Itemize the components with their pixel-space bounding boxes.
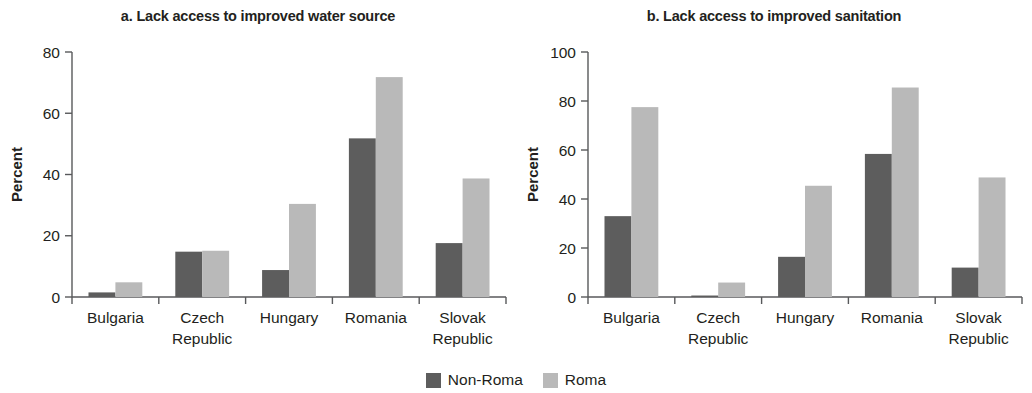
bar [175, 252, 202, 297]
y-tick-label: 0 [567, 289, 576, 306]
x-tick-label: Bulgaria [87, 309, 144, 326]
bar [463, 178, 490, 297]
bar [289, 204, 316, 297]
bar [979, 177, 1006, 297]
bar [349, 138, 376, 297]
y-axis-label: Percent [524, 147, 541, 202]
legend-label: Non-Roma [448, 371, 523, 389]
x-tick-label: CzechRepublic [688, 309, 749, 347]
bar [436, 243, 463, 297]
bar [115, 282, 142, 297]
bar [631, 107, 658, 297]
bar [865, 154, 892, 297]
x-tick-label: Romania [861, 309, 923, 326]
x-tick-label: Hungary [776, 309, 835, 326]
legend-swatch-icon [543, 373, 558, 388]
y-tick-label: 100 [550, 44, 576, 61]
panel-b-chart: 020406080100PercentBulgariaCzechRepublic… [516, 0, 1032, 360]
bar [778, 257, 805, 297]
bar [952, 268, 979, 297]
bar [691, 296, 718, 297]
x-tick-label: SlovakRepublic [948, 309, 1009, 347]
legend-item: Roma [543, 371, 606, 389]
y-tick-label: 80 [43, 44, 61, 61]
x-tick-label: Hungary [260, 309, 319, 326]
y-tick-label: 60 [559, 142, 577, 159]
y-tick-label: 20 [559, 240, 577, 257]
x-tick-label: CzechRepublic [172, 309, 233, 347]
panel-b: b. Lack access to improved sanitation 02… [516, 0, 1032, 360]
panel-a-chart: 020406080PercentBulgariaCzechRepublicHun… [0, 0, 516, 360]
bar [892, 88, 919, 297]
y-tick-label: 0 [51, 289, 60, 306]
y-axis-label: Percent [8, 147, 25, 202]
bar [262, 270, 289, 297]
y-tick-label: 40 [43, 166, 61, 183]
legend-swatch-icon [426, 373, 441, 388]
y-tick-label: 40 [559, 191, 577, 208]
bar [805, 186, 832, 297]
legend-item: Non-Roma [426, 371, 523, 389]
bar [604, 216, 631, 297]
chart-legend: Non-RomaRoma [0, 371, 1032, 389]
legend-label: Roma [565, 371, 606, 389]
x-tick-label: Romania [345, 309, 407, 326]
y-tick-label: 80 [559, 93, 577, 110]
bar [88, 292, 115, 297]
bar [202, 251, 229, 297]
x-tick-label: SlovakRepublic [432, 309, 493, 347]
figure-root: a. Lack access to improved water source … [0, 0, 1032, 393]
panels-container: a. Lack access to improved water source … [0, 0, 1032, 360]
y-tick-label: 60 [43, 105, 61, 122]
panel-a: a. Lack access to improved water source … [0, 0, 516, 360]
x-tick-label: Bulgaria [603, 309, 660, 326]
bar [718, 283, 745, 297]
y-tick-label: 20 [43, 227, 61, 244]
bar [376, 77, 403, 297]
